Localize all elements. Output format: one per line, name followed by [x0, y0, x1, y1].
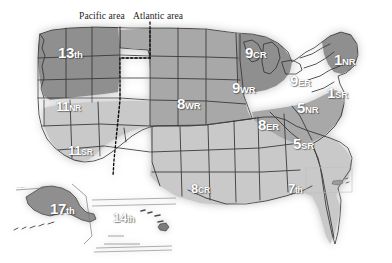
region-number: 8 [191, 181, 198, 196]
region-suffix: NR [342, 56, 355, 67]
region-suffix: th [127, 214, 135, 224]
region-number: 11 [56, 99, 69, 114]
virgin-islands-shape [345, 178, 349, 183]
region-suffix: th [74, 49, 83, 60]
region-number: 8 [258, 116, 266, 133]
alaska-aleutians [14, 222, 54, 230]
pacific-area-caption: Pacific area [79, 11, 125, 21]
region-number: 17 [50, 200, 66, 217]
region-number: 1 [327, 84, 335, 101]
region-label-17th[interactable]: 17th [50, 201, 75, 217]
hawaii-islands [141, 210, 163, 222]
region-number: 9 [245, 44, 253, 61]
region-number: 13 [58, 44, 74, 61]
region-label-9ER[interactable]: 9ER [290, 73, 311, 89]
region-label-9CR[interactable]: 9CR [245, 45, 266, 61]
region-label-8CR[interactable]: 8CR [191, 180, 210, 196]
map-graphic [0, 0, 392, 263]
region-label-11SR[interactable]: 11SR [68, 142, 93, 158]
region-suffix: CR [198, 185, 210, 195]
region-number: 7 [288, 181, 295, 196]
region-label-13th[interactable]: 13th [58, 45, 83, 61]
region-label-9WR[interactable]: 9WR [232, 80, 255, 96]
region-fill-dark-northwest [38, 27, 120, 100]
region-number: 9 [232, 79, 240, 96]
alaska-inset-caption: ALASKA [16, 186, 26, 189]
northeast-state-lines-3 [308, 66, 340, 80]
region-number: 5 [293, 135, 301, 152]
region-label-14th[interactable]: 14th [113, 209, 135, 225]
hawaii-big-island [158, 223, 169, 231]
region-number: 1 [334, 51, 342, 68]
region-label-5NR[interactable]: 5NR [297, 100, 318, 116]
region-suffix: SR [301, 140, 314, 151]
region-suffix: th [66, 205, 75, 216]
region-label-8ER[interactable]: 8ER [258, 117, 279, 133]
region-suffix: ER [266, 121, 279, 132]
region-number: 8 [177, 95, 185, 112]
region-suffix: CR [253, 49, 266, 60]
region-suffix: WR [240, 84, 255, 95]
mainland-group [38, 22, 358, 244]
region-label-8WR[interactable]: 8WR [177, 96, 200, 112]
region-label-7th[interactable]: 7th [288, 180, 303, 196]
region-label-1SR[interactable]: 1SR [327, 85, 348, 101]
region-number: 5 [297, 99, 305, 116]
region-number: 14 [113, 210, 127, 225]
atlantic-area-caption: Atlantic area [133, 11, 183, 21]
hawaii-inset [92, 198, 176, 252]
region-suffix: SR [81, 147, 92, 157]
region-suffix: NR [305, 104, 318, 115]
region-number: 9 [290, 72, 298, 89]
region-label-1NR[interactable]: 1NR [334, 52, 355, 68]
region-suffix: WR [185, 100, 200, 111]
region-suffix: NR [69, 103, 81, 113]
region-suffix: SR [335, 89, 348, 100]
region-suffix: ER [298, 77, 311, 88]
region-label-5SR[interactable]: 5SR [293, 136, 314, 152]
region-suffix: th [295, 185, 303, 195]
region-label-11NR[interactable]: 11NR [56, 98, 81, 114]
us-regions-map: Pacific area Atlantic area 13th11NR11SR8… [0, 0, 392, 263]
region-number: 11 [68, 143, 81, 158]
